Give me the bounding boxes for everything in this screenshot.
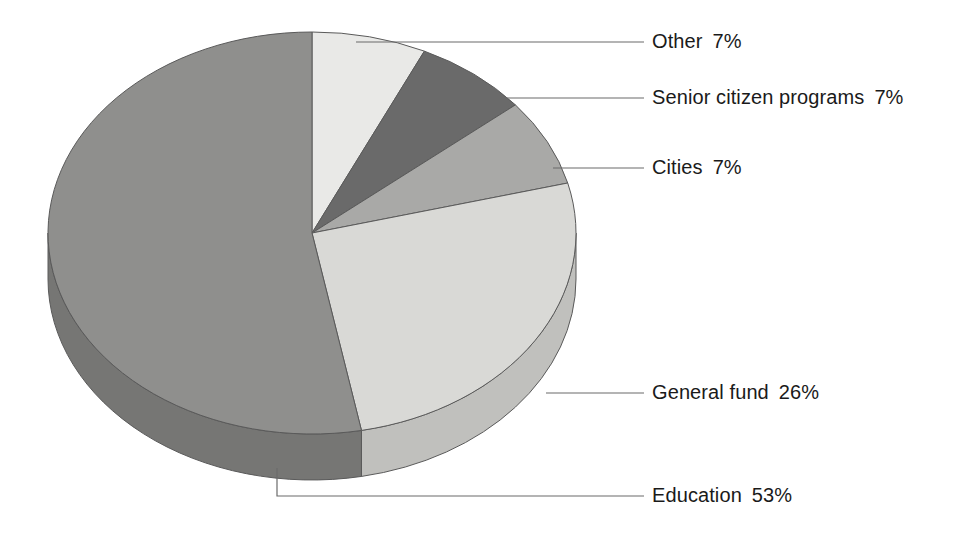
callout-label-senior-citizen-programs-percent: 7%	[874, 86, 903, 108]
callout-label-other-percent: 7%	[713, 30, 742, 52]
callout-label-other: Other7%	[652, 30, 742, 53]
callout-label-education: Education53%	[652, 484, 792, 507]
pie-top-faces	[48, 32, 576, 434]
callout-label-senior-citizen-programs: Senior citizen programs7%	[652, 86, 904, 109]
callout-label-education-name: Education	[652, 484, 742, 506]
callout-label-general-fund-name: General fund	[652, 381, 769, 403]
callout-label-cities: Cities7%	[652, 156, 742, 179]
callout-label-senior-citizen-programs-name: Senior citizen programs	[652, 86, 864, 108]
callout-label-education-percent: 53%	[752, 484, 792, 506]
callout-label-other-name: Other	[652, 30, 703, 52]
callout-label-general-fund-percent: 26%	[779, 381, 819, 403]
pie-chart-graphic	[0, 0, 971, 539]
callout-label-cities-percent: 7%	[713, 156, 742, 178]
callout-label-cities-name: Cities	[652, 156, 703, 178]
callout-label-general-fund: General fund26%	[652, 381, 819, 404]
pie-chart: Other7% Senior citizen programs7% Cities…	[0, 0, 971, 539]
